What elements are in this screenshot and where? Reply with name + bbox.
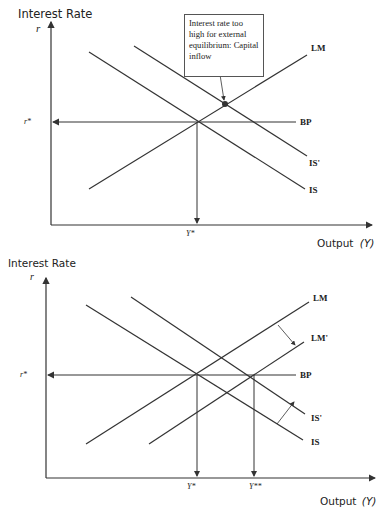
bottom-y-star-label: Y* xyxy=(187,482,195,491)
bottom-lm-prime-curve xyxy=(149,342,304,444)
top-x-axis-title-text: Output xyxy=(317,237,353,249)
top-x-axis-title: Output (Y) xyxy=(317,237,374,249)
bottom-is-shift-arrow xyxy=(277,402,294,424)
top-y-axis-title: Interest Rate xyxy=(18,7,92,21)
bottom-y-axis-symbol: r xyxy=(30,271,34,282)
top-bp-label: BP xyxy=(300,117,312,127)
bottom-x-axis-title-text: Output xyxy=(320,495,356,507)
top-r-star-label: r* xyxy=(24,117,31,126)
bottom-lm-label: LM xyxy=(313,293,328,303)
top-x-axis-symbol: (Y) xyxy=(360,237,375,249)
top-is-label: IS xyxy=(309,185,318,195)
top-y-star-label: Y* xyxy=(186,229,194,238)
bottom-lm-shift-arrow xyxy=(278,325,295,345)
bottom-diagram xyxy=(46,278,375,478)
bottom-r-star-label: r* xyxy=(20,370,27,379)
top-y-axis-symbol: r xyxy=(36,22,40,34)
bottom-is-curve xyxy=(86,305,303,440)
top-disequilibrium-dot xyxy=(222,101,228,107)
bottom-y-axis-title: Interest Rate xyxy=(8,257,76,269)
capital-inflow-callout: Interest rate too high for external equi… xyxy=(184,14,264,77)
bottom-is-label: IS xyxy=(311,437,320,447)
bottom-x-axis-title: Output (Y) xyxy=(320,495,376,507)
bottom-x-axis-symbol: (Y) xyxy=(362,495,377,507)
bottom-is-prime-label: IS' xyxy=(311,413,322,423)
bottom-lm-prime-label: LM' xyxy=(311,333,328,343)
top-is-prime-label: IS' xyxy=(309,158,320,168)
top-lm-label: LM xyxy=(311,43,326,53)
bottom-bp-label: BP xyxy=(300,370,312,380)
bottom-is-prime-curve xyxy=(131,297,305,414)
bottom-y-double-star-label: Y** xyxy=(249,482,261,491)
